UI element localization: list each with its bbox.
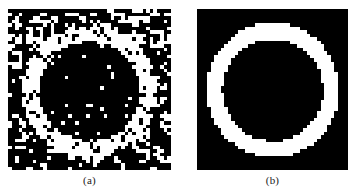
binary-image-b (197, 9, 348, 170)
figure-container: (a) (b) (0, 0, 358, 194)
image-panel-a (8, 9, 171, 170)
caption-b: (b) (197, 174, 348, 186)
image-panel-b (197, 9, 348, 170)
caption-a: (a) (8, 174, 171, 186)
binary-image-a (8, 9, 171, 170)
